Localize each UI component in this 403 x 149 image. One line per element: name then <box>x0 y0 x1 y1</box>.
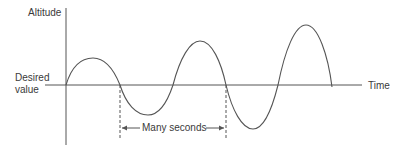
baseline-label-line1: Desired <box>15 72 49 83</box>
altitude-curve <box>66 25 332 129</box>
left-arrowhead-icon <box>122 126 127 131</box>
y-axis-label: Altitude <box>28 7 62 18</box>
right-arrowhead-icon <box>219 126 224 131</box>
baseline-label-line2: value <box>15 84 39 95</box>
x-axis-label: Time <box>368 80 390 91</box>
oscillation-diagram: Altitude Time Desired value Many seconds <box>0 0 403 149</box>
period-annotation: Many seconds <box>142 122 206 133</box>
